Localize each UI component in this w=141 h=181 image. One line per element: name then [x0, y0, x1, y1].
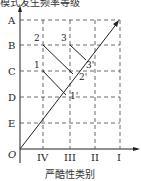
point-label-2-prime: 2' [79, 72, 87, 82]
diagonal-arrow-icon [113, 20, 119, 27]
x-tick-IV: IV [37, 152, 49, 163]
y-tick-B: B [8, 40, 15, 51]
projection-line-3 [70, 45, 86, 60]
risk-matrix-diagram: A B C D E O IV III II I 1 2 3 1' 2' 3' [0, 0, 141, 181]
origin-label: O [8, 149, 16, 160]
x-axis-label: 严酷性类别 [45, 166, 95, 181]
point-label-1: 1 [34, 60, 40, 70]
projection-line-2 [43, 45, 73, 74]
x-tick-II: II [91, 152, 99, 163]
x-tick-III: III [64, 152, 76, 163]
y-axis-arrow-icon [18, 5, 22, 12]
y-tick-A: A [7, 15, 16, 26]
vertical-grid [43, 20, 120, 149]
y-tick-C: C [8, 66, 16, 77]
point-label-3: 3 [61, 33, 67, 43]
y-tick-E: E [8, 118, 15, 129]
y-tick-D: D [8, 92, 16, 103]
x-axis-arrow-icon [133, 147, 140, 151]
x-tick-I: I [117, 152, 121, 163]
point-label-2: 2 [34, 33, 40, 43]
projection-line-1 [43, 71, 66, 95]
point-label-3-prime: 3' [86, 60, 94, 70]
point-label-1-prime: 1' [70, 91, 78, 101]
